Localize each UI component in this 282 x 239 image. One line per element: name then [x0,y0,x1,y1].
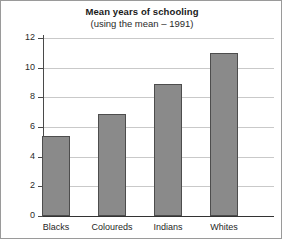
bar [210,53,238,216]
bar [98,114,126,216]
chart-figure: Mean years of schooling (using the mean … [0,0,282,239]
y-tick-label: 10 [1,62,35,72]
y-tick-label: 4 [1,151,35,161]
bar [154,84,182,216]
y-tick-label: 2 [1,180,35,190]
gridline [44,38,274,39]
x-axis-label: Whites [189,222,259,232]
gridline [44,68,274,69]
y-tick-label: 6 [1,121,35,131]
y-tick-label: 8 [1,91,35,101]
bar [42,136,70,216]
plot-area: 024681012 BlacksColouredsIndiansWhites [1,1,282,239]
y-tick-label: 12 [1,32,35,42]
x-axis-line [43,216,274,217]
y-tick-label: 0 [1,210,35,220]
